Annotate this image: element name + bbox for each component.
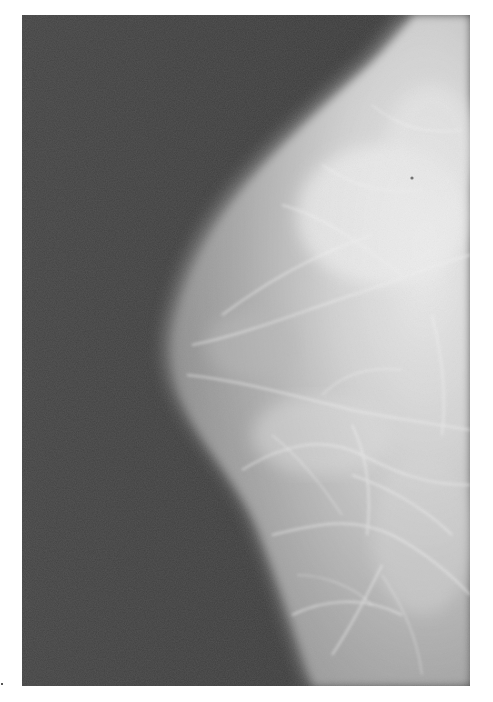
corner-artifact (1, 683, 3, 685)
mammogram-rendering (22, 15, 470, 686)
page (0, 0, 493, 702)
mammogram-image (22, 15, 470, 686)
